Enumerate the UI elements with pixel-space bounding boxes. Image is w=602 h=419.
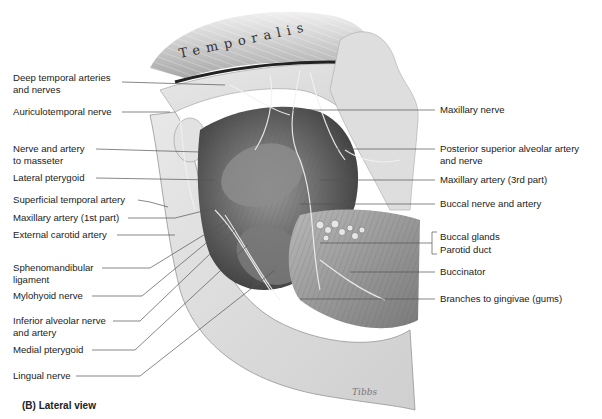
label-lingual-nerve: Lingual nerve bbox=[13, 370, 71, 382]
label-medial-pterygoid: Medial pterygoid bbox=[13, 344, 83, 356]
label-maxillary-artery-3rd-part: Maxillary artery (3rd part) bbox=[440, 174, 547, 186]
label-maxillary-nerve: Maxillary nerve bbox=[440, 104, 505, 116]
label-mylohyoid-nerve: Mylohyoid nerve bbox=[13, 290, 83, 302]
label-buccinator: Buccinator bbox=[440, 266, 485, 278]
label-parotid-duct: Parotid duct bbox=[440, 244, 491, 256]
label-buccal-glands: Buccal glands bbox=[440, 231, 500, 243]
artist-signature: Tibbs bbox=[352, 387, 377, 397]
label-lateral-pterygoid: Lateral pterygoid bbox=[13, 172, 84, 184]
label-auriculotemporal-nerve: Auriculotemporal nerve bbox=[13, 106, 112, 118]
label-branches-to-gingivae: Branches to gingivae (gums) bbox=[440, 293, 562, 305]
label-buccal-nerve-artery: Buccal nerve and artery bbox=[440, 198, 541, 210]
label-sphenomandibular-ligament: Sphenomandibular ligament bbox=[13, 262, 94, 286]
label-posterior-superior-alveolar: Posterior superior alveolar artery and n… bbox=[440, 143, 579, 167]
label-external-carotid-artery: External carotid artery bbox=[13, 229, 107, 241]
label-inferior-alveolar-nerve-artery: Inferior alveolar nerve and artery bbox=[13, 315, 106, 339]
label-deep-temporal-arteries-nerves: Deep temporal arteries and nerves bbox=[13, 72, 111, 96]
figure-caption: (B) Lateral view bbox=[22, 400, 96, 411]
label-maxillary-artery-1st-part: Maxillary artery (1st part) bbox=[13, 212, 119, 224]
label-nerve-artery-to-masseter: Nerve and artery to masseter bbox=[13, 143, 84, 167]
label-superficial-temporal-artery: Superficial temporal artery bbox=[13, 194, 125, 206]
